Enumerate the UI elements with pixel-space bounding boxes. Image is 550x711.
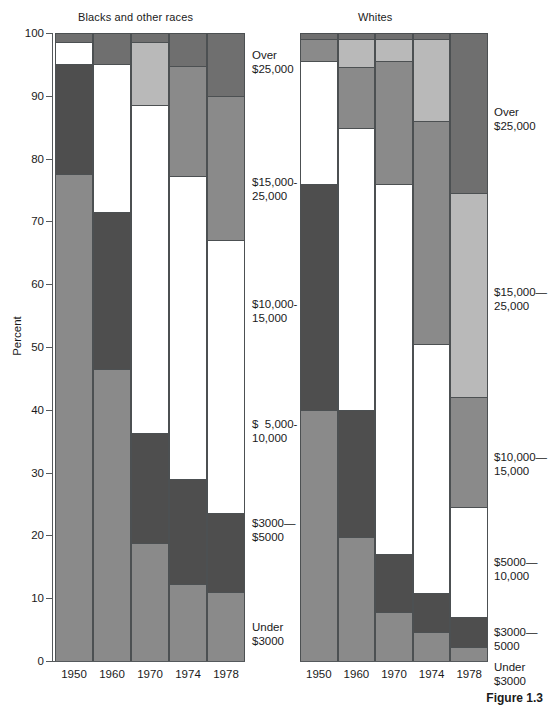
bar-segment-under-3000 xyxy=(169,584,207,661)
bar-segment-3000-5000 xyxy=(450,617,488,647)
bar-segment-over-25000 xyxy=(169,33,207,66)
x-axis-tick-label: 1974 xyxy=(412,668,452,680)
y-axis-tick-label: 70 xyxy=(0,215,44,227)
bar-segment-under-3000 xyxy=(338,537,376,661)
y-axis-tick-label: 40 xyxy=(0,404,44,416)
bar-segment-15000-25000 xyxy=(413,39,451,121)
income-band-label-center-5: Under $3000 xyxy=(252,620,284,648)
income-band-label-center-0: Over $25,000 xyxy=(252,48,294,76)
stacked-bar-1970 xyxy=(375,33,413,661)
bar-segment-3000-5000 xyxy=(207,513,245,592)
stacked-bar-1950 xyxy=(55,33,93,661)
bar-segment-10000-15000 xyxy=(300,39,338,61)
stacked-bar-1960 xyxy=(338,33,376,661)
income-band-label-center-3: $ 5,000- 10,000 xyxy=(252,417,297,445)
income-band-label-right-5: Under $3000 xyxy=(494,660,526,688)
bar-segment-15000-25000 xyxy=(338,39,376,67)
bar-segment-under-3000 xyxy=(300,410,338,661)
figure-caption: Figure 1.3 xyxy=(486,691,543,705)
bar-segment-3000-5000 xyxy=(55,64,93,174)
bar-segment-over-25000 xyxy=(450,33,488,193)
y-axis-tick-label: 20 xyxy=(0,529,44,541)
income-band-label-right-4: $3000— 5000 xyxy=(494,625,537,653)
bar-segment-5000-10000 xyxy=(131,105,169,433)
panel-title-blacks: Blacks and other races xyxy=(78,11,193,23)
plot-panel-whites xyxy=(300,33,488,661)
bar-segment-10000-15000 xyxy=(375,61,413,183)
stacked-bar-1978 xyxy=(207,33,245,661)
y-axis-tick-label: 100 xyxy=(0,27,44,39)
bar-segment-over-25000 xyxy=(55,33,93,42)
y-axis-tick-label: 30 xyxy=(0,467,44,479)
income-band-label-right-3: $5000— 10,000 xyxy=(494,555,537,583)
bar-segment-over-25000 xyxy=(338,33,376,39)
bar-segment-5000-10000 xyxy=(450,507,488,617)
y-axis-tick xyxy=(46,159,53,160)
income-band-label-center-2: $10,000- 15,000 xyxy=(252,297,297,325)
y-axis-tick-label: 10 xyxy=(0,592,44,604)
bar-segment-over-25000 xyxy=(131,33,169,42)
x-axis-tick-label: 1978 xyxy=(449,668,489,680)
stacked-bar-1960 xyxy=(93,33,131,661)
bar-segment-under-3000 xyxy=(207,592,245,661)
y-axis-tick xyxy=(46,347,53,348)
stacked-bar-1950 xyxy=(300,33,338,661)
bar-segment-10000-15000 xyxy=(169,66,207,176)
y-axis-tick-label: 0 xyxy=(0,655,44,667)
bar-segment-15000-25000 xyxy=(131,42,169,105)
y-axis-tick xyxy=(46,535,53,536)
stacked-bar-1974 xyxy=(169,33,207,661)
bar-segment-10000-15000 xyxy=(338,67,376,129)
x-axis-tick-label: 1970 xyxy=(374,668,414,680)
bar-segment-5000-10000 xyxy=(413,344,451,593)
x-axis-tick-label: 1978 xyxy=(206,668,246,680)
income-band-label-center-4: $3000— $5000 xyxy=(252,516,295,544)
bar-segment-3000-5000 xyxy=(300,184,338,410)
bar-segment-5000-10000 xyxy=(55,42,93,64)
x-axis-tick-label: 1960 xyxy=(336,668,376,680)
y-axis-label: Percent xyxy=(11,306,23,366)
bar-segment-over-25000 xyxy=(300,33,338,39)
bar-segment-3000-5000 xyxy=(131,433,169,543)
bar-segment-5000-10000 xyxy=(207,240,245,513)
bar-segment-5000-10000 xyxy=(338,128,376,409)
x-axis-tick-label: 1950 xyxy=(299,668,339,680)
bar-segment-10000-15000 xyxy=(207,96,245,240)
x-axis-line-left xyxy=(52,661,245,662)
bar-segment-3000-5000 xyxy=(413,593,451,632)
stacked-bar-1974 xyxy=(413,33,451,661)
panel-title-whites: Whites xyxy=(358,11,393,23)
bar-segment-under-3000 xyxy=(131,543,169,661)
bar-segment-5000-10000 xyxy=(375,184,413,554)
bar-segment-3000-5000 xyxy=(338,410,376,537)
x-axis-tick-label: 1950 xyxy=(54,668,94,680)
y-axis-tick xyxy=(46,284,53,285)
y-axis-tick-label: 60 xyxy=(0,278,44,290)
y-axis-tick-label: 80 xyxy=(0,153,44,165)
y-axis-tick xyxy=(46,473,53,474)
bar-segment-10000-15000 xyxy=(413,121,451,344)
bar-segment-5000-10000 xyxy=(300,61,338,183)
stacked-bar-1978 xyxy=(450,33,488,661)
y-axis-tick xyxy=(46,33,53,34)
x-axis-tick-label: 1970 xyxy=(130,668,170,680)
x-axis-tick-label: 1974 xyxy=(168,668,208,680)
bar-segment-3000-5000 xyxy=(375,554,413,612)
x-axis-tick-label: 1960 xyxy=(92,668,132,680)
bar-segment-over-25000 xyxy=(413,33,451,39)
x-axis-line-right xyxy=(300,661,488,662)
bar-segment-over-25000 xyxy=(93,33,131,64)
bar-segment-15000-25000 xyxy=(450,193,488,397)
y-axis-tick xyxy=(46,96,53,97)
bar-segment-under-3000 xyxy=(93,369,131,661)
income-band-label-center-1: $15,000- 25,000 xyxy=(252,175,297,203)
bar-segment-5000-10000 xyxy=(169,176,207,479)
income-band-label-right-1: $15,000— 25,000 xyxy=(494,285,547,313)
bar-segment-15000-25000 xyxy=(375,39,413,61)
y-axis-tick-label: 90 xyxy=(0,90,44,102)
y-axis-tick xyxy=(46,410,53,411)
bar-segment-under-3000 xyxy=(55,174,93,661)
y-axis-tick xyxy=(46,598,53,599)
bar-segment-under-3000 xyxy=(375,612,413,661)
bar-segment-under-3000 xyxy=(450,647,488,661)
